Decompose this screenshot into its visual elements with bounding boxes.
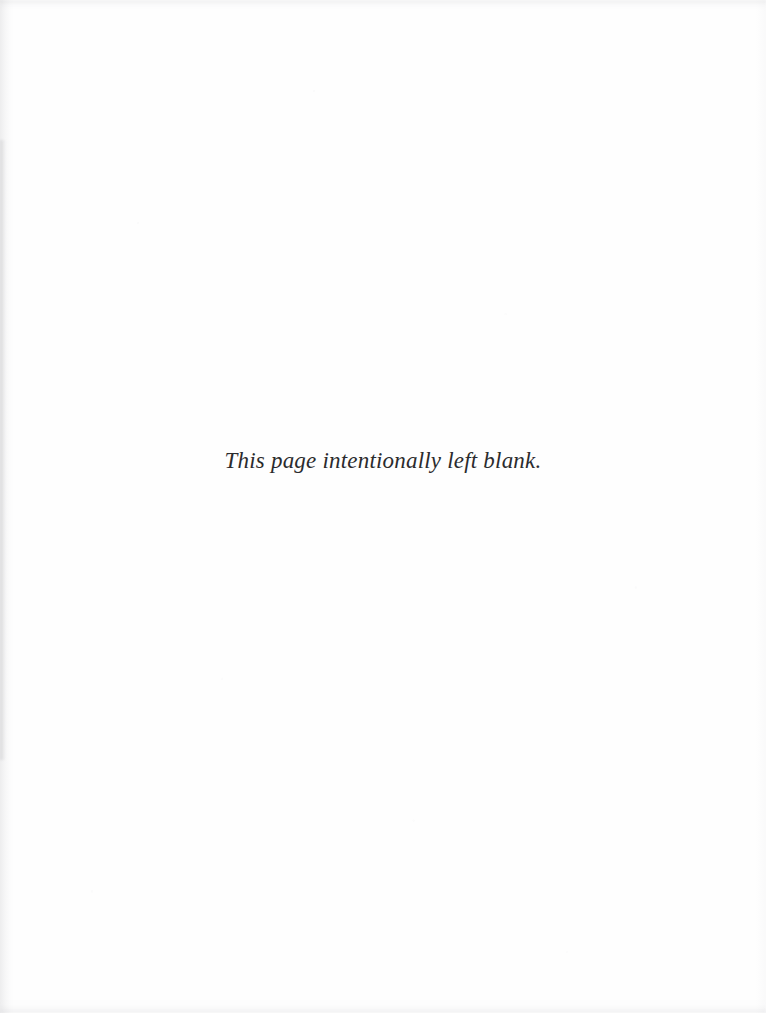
paper-grain-texture	[0, 0, 766, 1013]
page-edge-shadow-bottom	[0, 1001, 766, 1013]
page-edge-shadow-left	[0, 0, 14, 1013]
scanned-page: This page intentionally left blank.	[0, 0, 766, 1013]
page-edge-shadow-right	[756, 0, 766, 1013]
page-edge-shadow-top	[0, 0, 766, 10]
intentionally-blank-notice: This page intentionally left blank.	[0, 446, 766, 476]
